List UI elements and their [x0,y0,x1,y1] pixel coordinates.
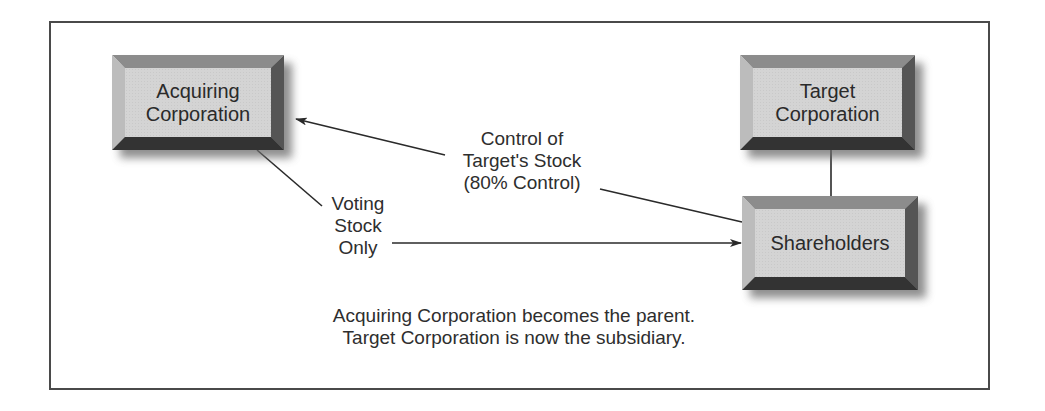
voting-edge-label: Voting Stock Only [322,193,394,259]
shareholders-node: Shareholders [742,196,918,290]
voting-label-line1: Voting [322,193,394,215]
control-edge-label: Control of Target's Stock (80% Control) [444,128,600,194]
node-face: Acquiring Corporation [125,68,271,137]
caption-line1: Acquiring Corporation becomes the parent… [280,305,748,327]
node-label-line1: Target [775,80,880,103]
voting-label-line3: Only [322,237,394,259]
node-face: Shareholders [755,209,905,277]
voting-source-line [257,150,322,206]
control-label-line3: (80% Control) [444,172,600,194]
caption-line2: Target Corporation is now the subsidiary… [280,327,748,349]
node-label-line2: Corporation [775,103,880,126]
node-label-line2: Corporation [146,103,251,126]
acquiring-corporation-node: Acquiring Corporation [112,55,284,150]
node-label: Shareholders [771,232,890,255]
control-label-line2: Target's Stock [444,150,600,172]
node-label-line1: Acquiring [146,80,251,103]
node-face: Target Corporation [753,68,902,137]
control-arrow-line [296,119,445,155]
diagram-caption: Acquiring Corporation becomes the parent… [280,305,748,349]
target-corporation-node: Target Corporation [740,55,915,150]
control-label-line1: Control of [444,128,600,150]
voting-label-line2: Stock [322,215,394,237]
control-source-line [600,189,742,222]
